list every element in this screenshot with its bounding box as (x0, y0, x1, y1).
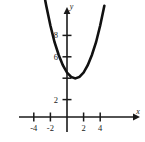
y-axis-label: y (69, 2, 74, 11)
x-tick-label-4: 4 (98, 123, 103, 133)
x-axis-label: x (135, 107, 140, 116)
x-tick-label-2: 2 (81, 123, 85, 133)
parabola-figure: -4 -2 2 4 8 6 2 x y (0, 0, 145, 142)
parabola-curve (38, 0, 104, 78)
y-tick-label-6: 6 (54, 52, 58, 62)
y-tick-label-8: 8 (54, 30, 58, 40)
x-tick-label-minus2: -2 (47, 123, 54, 133)
x-tick-label-minus4: -4 (30, 123, 38, 133)
plot-canvas: -4 -2 2 4 8 6 2 x y (0, 0, 145, 142)
y-tick-label-2: 2 (54, 95, 58, 105)
